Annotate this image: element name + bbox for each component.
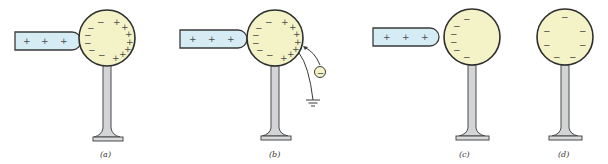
ground-symbol-icon (306, 100, 320, 106)
negative-charge: − (463, 14, 471, 24)
panel-label: (a) (100, 150, 111, 159)
negative-charge: − (569, 52, 577, 62)
rod-charge: + (208, 34, 216, 44)
rod-charge: + (23, 36, 31, 46)
negative-charge: − (553, 52, 561, 62)
rod-charge: + (189, 34, 197, 44)
negative-charge: − (98, 50, 106, 60)
stand-stem (552, 65, 578, 136)
rod-charge: + (227, 34, 235, 44)
negative-charge: − (543, 26, 551, 36)
rod-charges: + + + (383, 32, 429, 42)
stand-base (549, 136, 582, 140)
panel-d: − − − − − − − (d) (537, 9, 593, 159)
negative-charge: − (561, 12, 569, 22)
panel-label: (c) (459, 150, 470, 159)
negative-charge: − (256, 45, 264, 55)
negative-charge: − (266, 50, 274, 60)
rod-charge: + (383, 32, 391, 42)
stand-base (456, 136, 489, 140)
positive-charge: + (119, 49, 127, 59)
panel-b: + + + − − − − − − + + + + + + + (180, 10, 326, 159)
arrowhead-icon (303, 46, 308, 50)
rod-charge: + (402, 32, 410, 42)
stand-stem (94, 65, 120, 137)
negative-charge: − (453, 45, 461, 55)
panel-label: (b) (269, 150, 280, 159)
negative-charge: − (579, 26, 587, 36)
ground-wire (299, 53, 313, 100)
stand-base (261, 136, 291, 140)
panel-label: (d) (558, 150, 569, 159)
stand-stem (262, 66, 288, 136)
positive-charge: + (281, 17, 289, 27)
negative-charge: − (97, 17, 105, 27)
electron-path-arrow (304, 47, 320, 65)
stand-base (93, 137, 123, 141)
induction-diagram: + + + − − − − − − + + + + + + + (a) + (0, 0, 608, 164)
positive-charge: + (113, 17, 121, 27)
negative-charge: − (579, 40, 587, 50)
positive-charge: + (280, 53, 288, 63)
stand-stem (459, 65, 485, 136)
electron-sign: − (317, 68, 325, 78)
panel-c: + + + − − − − − − (c) (373, 9, 500, 159)
negative-charge: − (463, 52, 471, 62)
positive-charge: + (287, 49, 295, 59)
negative-charge: − (265, 17, 273, 27)
negative-charge: − (88, 45, 96, 55)
rod-charge: + (60, 36, 68, 46)
ground-connection: − (299, 46, 326, 106)
rod-charges: + + + (23, 36, 68, 46)
panel-a: + + + − − − − − − + + + + + + + (a) (15, 10, 135, 159)
rod-charges: + + + (189, 34, 235, 44)
negative-charge: − (543, 40, 551, 50)
positive-charge: + (112, 53, 120, 63)
rod-charge: + (421, 32, 429, 42)
rod-charge: + (41, 36, 49, 46)
